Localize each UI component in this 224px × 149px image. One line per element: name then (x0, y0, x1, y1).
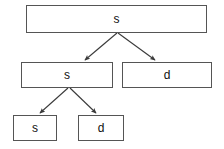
node-level1-left-s: s (21, 62, 113, 88)
node-label: s (32, 122, 38, 134)
edge-middle-to-left-leaf (40, 88, 68, 113)
node-root-s: s (26, 5, 207, 33)
node-level2-left-s: s (13, 115, 57, 141)
node-label: d (98, 122, 105, 134)
node-level1-right-d: d (122, 62, 212, 88)
node-label: s (64, 69, 70, 81)
node-label: s (114, 13, 120, 25)
edge-root-to-right-child (118, 33, 155, 60)
parse-tree-diagram: s s d s d (0, 0, 224, 149)
node-level2-right-d: d (78, 115, 124, 141)
edge-middle-to-right-leaf (70, 88, 96, 113)
edge-root-to-left-child (85, 33, 117, 60)
node-label: d (164, 69, 171, 81)
